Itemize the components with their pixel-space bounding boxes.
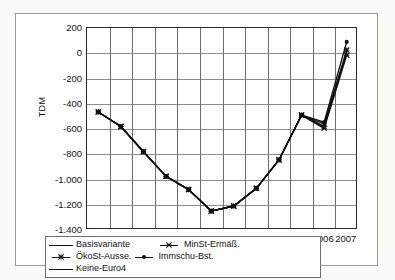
plot-area bbox=[86, 27, 357, 229]
data-point-marker-square bbox=[119, 124, 123, 128]
chart-container: TDM 2000-200-400-600-800-1.000-1.200-1.4… bbox=[15, 13, 378, 266]
data-point-marker-dot bbox=[345, 40, 349, 44]
series-layer bbox=[87, 28, 358, 230]
series-Immschu-Bst. bbox=[96, 40, 349, 213]
data-point-marker-square bbox=[254, 186, 258, 190]
data-point-marker-square bbox=[186, 187, 190, 191]
x-star-line-key bbox=[157, 240, 181, 251]
legend-item[interactable]: MinSt-Ermäß. bbox=[157, 239, 247, 251]
data-point-marker-square bbox=[164, 174, 168, 178]
legend-item[interactable]: Keine-Euro4 bbox=[49, 263, 139, 275]
legend-line-swatch bbox=[49, 245, 73, 246]
series-line bbox=[98, 50, 346, 211]
legend-item[interactable]: ÖkoSt-Ausse. bbox=[49, 251, 132, 263]
series-MinSt-Ermäß. bbox=[96, 53, 350, 214]
legend-item-label: Keine-Euro4 bbox=[76, 263, 126, 275]
series-Basisvariante bbox=[98, 52, 346, 211]
y-axis-tick-label: -1.200 bbox=[34, 199, 82, 208]
legend-item-label: ÖkoSt-Ausse. bbox=[76, 251, 132, 263]
series-line bbox=[98, 55, 346, 211]
legend-line-swatch bbox=[49, 269, 73, 270]
y-axis-tick-label: -1.000 bbox=[34, 174, 82, 183]
x-axis-tick-label: 2007 bbox=[326, 233, 366, 244]
series-markers-basisvariante bbox=[96, 110, 304, 214]
y-axis-tick-label: -600 bbox=[34, 124, 82, 133]
y-axis-tick-label: -200 bbox=[34, 73, 82, 82]
chart-legend: BasisvarianteMinSt-Ermäß.ÖkoSt-Ausse.Imm… bbox=[45, 236, 321, 278]
legend-item[interactable]: Immschu-Bst. bbox=[132, 251, 240, 263]
series-line bbox=[98, 52, 346, 211]
legend-marker-swatch bbox=[139, 253, 148, 262]
data-point-marker-square bbox=[232, 204, 236, 208]
legend-item-label: Basisvariante bbox=[76, 239, 130, 251]
y-axis-tick-labels: 2000-200-400-600-800-1.000-1.200-1.400 bbox=[34, 27, 82, 229]
dot-line-key bbox=[132, 252, 156, 263]
chart-plot-wrapper: TDM 2000-200-400-600-800-1.000-1.200-1.4… bbox=[16, 14, 379, 267]
y-axis-tick-label: -400 bbox=[34, 98, 82, 107]
data-point-marker-square bbox=[141, 150, 145, 154]
series-line bbox=[98, 53, 346, 211]
y-axis-tick-label: 0 bbox=[34, 48, 82, 57]
series-line bbox=[98, 42, 346, 211]
y-axis-tick-label: -1.400 bbox=[34, 225, 82, 234]
asterisk-line-key bbox=[49, 252, 73, 263]
data-point-marker-asterisk bbox=[58, 254, 63, 259]
data-point-marker-square bbox=[96, 110, 100, 114]
legend-item-label: MinSt-Ermäß. bbox=[184, 239, 240, 251]
y-axis-tick-label: -800 bbox=[34, 149, 82, 158]
series-Keine-Euro4 bbox=[98, 53, 346, 211]
plain-line-key bbox=[49, 240, 73, 251]
y-axis-tick-label: 200 bbox=[34, 23, 82, 32]
data-point-marker-square bbox=[209, 209, 213, 213]
legend-item[interactable]: Basisvariante bbox=[49, 239, 157, 251]
series-ÖkoSt-Ausse. bbox=[96, 47, 350, 213]
plain-line-key bbox=[49, 264, 73, 275]
legend-marker-swatch bbox=[165, 241, 174, 250]
data-point-marker-x-star bbox=[166, 242, 171, 247]
data-point-marker-dot bbox=[141, 255, 145, 259]
data-point-marker-square bbox=[299, 113, 303, 117]
legend-item-label: Immschu-Bst. bbox=[159, 251, 214, 263]
legend-marker-swatch bbox=[57, 253, 66, 262]
data-point-marker-square bbox=[277, 158, 281, 162]
